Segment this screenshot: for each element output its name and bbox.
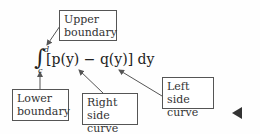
integrand-expression: [p(y) − q(y)] dy bbox=[46, 51, 154, 67]
lower-limit: c bbox=[38, 66, 42, 75]
right-side-curve-arrow bbox=[79, 70, 103, 93]
left-side-curve-line2: curve bbox=[167, 106, 209, 119]
previous-triangle-icon[interactable] bbox=[232, 107, 242, 119]
lower-boundary-line1: Lower bbox=[17, 92, 64, 105]
right-side-curve-line1: Right side bbox=[87, 96, 133, 122]
upper-boundary-label: Upper boundary bbox=[59, 10, 117, 41]
lower-boundary-label: Lower boundary bbox=[12, 89, 69, 121]
left-side-curve-label: Left side curve bbox=[162, 77, 214, 109]
right-side-curve-line2: curve bbox=[87, 122, 133, 134]
lower-boundary-line2: boundary bbox=[17, 105, 64, 118]
left-side-curve-line1: Left side bbox=[167, 80, 209, 106]
upper-boundary-line2: boundary bbox=[64, 26, 112, 39]
upper-boundary-line1: Upper bbox=[64, 13, 112, 26]
right-side-curve-label: Right side curve bbox=[82, 93, 138, 125]
integral-diagram: Upper boundary ∫ d c [p(y) − q(y)] dy Lo… bbox=[0, 0, 260, 134]
